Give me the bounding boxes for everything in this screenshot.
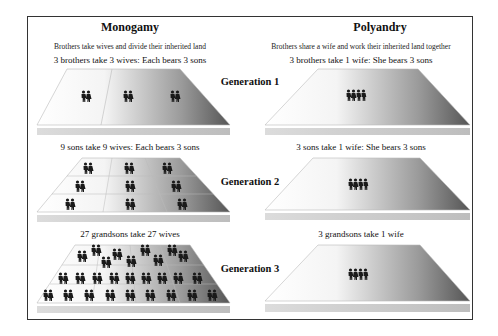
platforms-illustration xyxy=(0,0,498,336)
gen2-polyandry-platform xyxy=(265,158,470,220)
gen1-monogamy-platform xyxy=(37,69,230,135)
gen2-monogamy-platform xyxy=(37,158,230,222)
gen1-polyandry-platform xyxy=(265,69,470,135)
gen3-monogamy-platform xyxy=(37,244,230,313)
gen3-polyandry-platform xyxy=(265,245,470,312)
